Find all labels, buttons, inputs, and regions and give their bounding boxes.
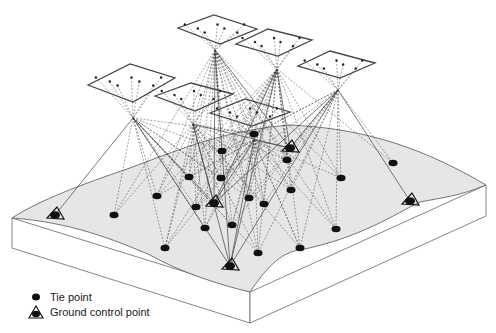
ground-control-point <box>50 211 60 219</box>
image-point <box>273 37 275 39</box>
photos-layer <box>88 15 375 140</box>
tie-point <box>217 175 226 182</box>
image-point <box>303 59 305 61</box>
tie-point <box>185 174 194 181</box>
image-ray <box>215 29 224 51</box>
tie-point <box>153 193 162 200</box>
image-ray <box>181 99 193 124</box>
image-point <box>180 98 182 100</box>
image-ray <box>317 65 338 91</box>
image-point <box>160 76 162 78</box>
legend-label-tie-point: Tie point <box>50 291 92 303</box>
photo-frame <box>155 83 233 111</box>
image-point <box>316 63 318 65</box>
image-point <box>243 23 245 25</box>
tie-point <box>245 195 254 202</box>
ground-control-point-icon <box>28 305 44 319</box>
image-ray <box>132 78 134 119</box>
tie-point-icon <box>28 290 44 304</box>
image-ray <box>337 61 339 91</box>
tie-point <box>192 204 201 211</box>
aerial-triangulation-diagram <box>0 0 496 333</box>
image-point <box>116 84 118 86</box>
image-point <box>241 37 243 39</box>
image-point <box>223 27 225 29</box>
image-ray <box>185 25 215 51</box>
image-point <box>279 41 281 43</box>
image-point <box>197 27 199 29</box>
image-ray <box>193 91 194 124</box>
image-point <box>95 76 97 78</box>
legend-item-ground-control-point: Ground control point <box>28 304 150 319</box>
image-point <box>216 23 218 25</box>
image-point <box>361 59 363 61</box>
image-point <box>184 23 186 25</box>
image-ray <box>110 82 133 119</box>
image-point <box>161 90 163 92</box>
image-point <box>260 45 262 47</box>
image-point <box>173 94 175 96</box>
image-ray <box>338 61 362 91</box>
image-ray <box>255 42 277 69</box>
image-point <box>236 115 238 117</box>
tie-point <box>296 245 305 252</box>
image-point <box>276 107 278 109</box>
tie-point <box>250 131 259 138</box>
image-point <box>203 31 205 33</box>
image-point <box>216 107 218 109</box>
image-ray <box>96 78 133 119</box>
image-point <box>254 41 256 43</box>
tie-point <box>254 250 263 257</box>
tie-point <box>218 148 227 155</box>
tie-point <box>332 226 341 233</box>
image-ray <box>243 38 278 69</box>
ground-control-point <box>285 144 295 152</box>
tie-point <box>201 225 210 232</box>
ground-control-point <box>405 197 415 205</box>
image-point <box>138 80 140 82</box>
image-ray <box>215 25 218 51</box>
image-point <box>109 80 111 82</box>
image-ray <box>162 91 193 124</box>
image-point <box>229 111 231 113</box>
tie-point <box>337 175 346 182</box>
legend-item-tie-point: Tie point <box>28 289 150 304</box>
image-point <box>152 84 154 86</box>
legend-label-ground-control-point: Ground control point <box>50 306 150 318</box>
tie-point <box>260 201 269 208</box>
legend: Tie point Ground control point <box>28 289 150 319</box>
image-ray <box>274 38 277 69</box>
ground-control-point <box>209 199 219 207</box>
image-point <box>256 111 258 113</box>
tie-point <box>228 222 237 229</box>
image-point <box>193 90 195 92</box>
image-ray <box>215 25 244 51</box>
ground-control-point <box>225 262 235 270</box>
image-ray <box>133 86 153 119</box>
tie-point <box>389 160 398 167</box>
image-point <box>236 31 238 33</box>
tie-point <box>287 187 296 194</box>
image-ray <box>133 78 161 119</box>
image-ray <box>215 33 237 51</box>
image-point <box>298 37 300 39</box>
image-ray <box>262 46 278 69</box>
tie-point <box>161 245 170 252</box>
image-point <box>130 76 132 78</box>
image-point <box>323 67 325 69</box>
image-point <box>335 59 337 61</box>
image-point <box>342 63 344 65</box>
tie-point <box>110 212 119 219</box>
image-point <box>249 107 251 109</box>
tie-point <box>283 157 292 164</box>
image-point <box>200 94 202 96</box>
image-ray <box>305 61 338 91</box>
image-point <box>219 90 221 92</box>
image-ray <box>193 91 220 124</box>
